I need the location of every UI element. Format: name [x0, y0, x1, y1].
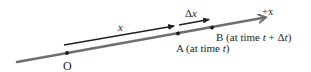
point-o-dot [65, 51, 69, 55]
position-vector-x: x [64, 21, 174, 45]
point-b-dot [210, 26, 214, 30]
x-vector-label: x [117, 21, 123, 33]
point-b-label: B (at time t + Δt) [216, 31, 292, 44]
displacement-vector-delta-x: Δx [179, 7, 209, 25]
point-a-dot [176, 32, 180, 36]
axis-label-plus-x: +x [262, 6, 274, 17]
position-displacement-diagram: +x x Δx O A (at time t) B (at time t + Δ… [0, 0, 311, 72]
point-o-label: O [63, 59, 72, 72]
delta-x-arrow-line [179, 20, 209, 26]
point-b: B (at time t + Δt) [210, 26, 292, 45]
point-a-label: A (at time t) [176, 42, 230, 55]
delta-x-label: Δx [185, 7, 197, 19]
